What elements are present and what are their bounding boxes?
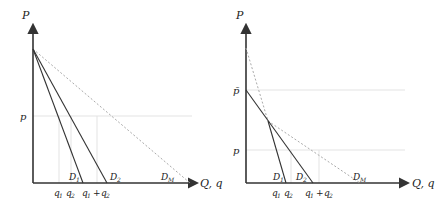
svg-text:2: 2 [70,192,75,199]
curve-label-d2: D 2 [109,172,121,183]
quantity-label-q2: q 2 [66,188,75,199]
price-label-pbar: p̄ [233,85,240,96]
svg-text:1: 1 [310,192,314,199]
svg-text:+: + [316,188,324,198]
y-axis-label: P [21,9,30,22]
price-label-p: p [20,111,27,122]
svg-text:+: + [93,188,101,198]
right-panel: P Q, q p̄ p D 1 D 2 D M q 1 q 2 q 1 + q … [233,9,435,199]
svg-text:D: D [272,172,280,182]
svg-text:D: D [160,172,168,182]
svg-text:2: 2 [302,176,307,183]
curve-label-d1: D 1 [272,172,284,183]
curve-label-d2: D 2 [295,172,307,183]
svg-text:1: 1 [76,176,80,183]
price-label-p: p [233,145,240,156]
svg-text:1: 1 [277,192,281,199]
quantity-label-q1: q 1 [272,188,281,199]
curve-label-dm: D M [160,172,175,183]
curve-label-dm: D M [352,172,367,183]
demand-curve-d2 [246,90,313,183]
svg-text:M: M [359,176,367,183]
svg-text:D: D [352,172,360,182]
y-axis-label: P [235,9,244,22]
demand-curve-dm [268,121,360,183]
svg-text:M: M [167,176,175,183]
quantity-label-q2: q 2 [284,188,293,199]
demand-curve-d1-upper [246,48,268,121]
x-axis-label: Q, q [412,177,435,190]
quantity-label-q1-plus-q2: q 1 + q 2 [82,188,110,199]
svg-text:2: 2 [328,192,333,199]
svg-text:1: 1 [87,192,91,199]
x-axis-label: Q, q [200,177,223,190]
curve-label-d1: D 1 [68,172,80,183]
svg-text:2: 2 [288,192,293,199]
quantity-label-q1-plus-q2: q 1 + q 2 [305,188,333,199]
left-panel: P Q, q p D 1 D 2 D M q 1 q 2 q 1 + q 2 [20,9,223,199]
diagram-canvas: P Q, q p D 1 D 2 D M q 1 q 2 q 1 + q 2 [0,0,446,207]
svg-text:2: 2 [116,176,121,183]
svg-text:D: D [68,172,76,182]
svg-text:2: 2 [105,192,110,199]
quantity-label-q1: q 1 [54,188,63,199]
svg-text:D: D [109,172,117,182]
svg-text:1: 1 [59,192,63,199]
svg-text:1: 1 [280,176,284,183]
svg-text:D: D [295,172,303,182]
